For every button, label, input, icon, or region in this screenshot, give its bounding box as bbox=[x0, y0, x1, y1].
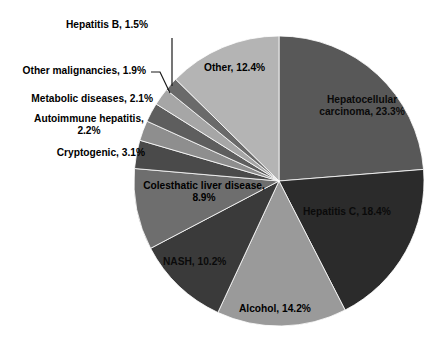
pie-chart-svg bbox=[0, 0, 436, 337]
slice-label-hepatitis-b: Hepatitis B, 1.5% bbox=[66, 19, 148, 31]
pie-chart-figure: Hepatitis B, 1.5% Other malignancies, 1.… bbox=[0, 0, 436, 337]
colesthatic-line1: Colesthatic liver disease, bbox=[143, 180, 265, 191]
slice-label-metabolic-diseases: Metabolic diseases, 2.1% bbox=[31, 93, 153, 105]
hepatocellular-line1: Hepatocellular bbox=[327, 94, 397, 105]
autoimmune-hepatitis-line1: Autoimmune hepatitis, bbox=[34, 113, 144, 124]
leader-lines-group bbox=[151, 38, 172, 93]
slice-label-colesthatic-liver-disease: Colesthatic liver disease, 8.9% bbox=[134, 180, 274, 205]
slice-label-nash: NASH, 10.2% bbox=[163, 256, 226, 268]
slice-label-hepatitis-c: Hepatitis C, 18.4% bbox=[303, 206, 391, 218]
slice-label-other-malignancies: Other malignancies, 1.9% bbox=[23, 65, 146, 77]
colesthatic-line2: 8.9% bbox=[192, 192, 215, 203]
hepatocellular-line2: carcinoma, 23.3% bbox=[319, 106, 405, 117]
slice-label-cryptogenic: Cryptogenic, 3.1% bbox=[57, 147, 145, 159]
slice-label-other: Other, 12.4% bbox=[204, 62, 265, 74]
slice-label-alcohol: Alcohol, 14.2% bbox=[239, 303, 311, 315]
autoimmune-hepatitis-line2: 2.2% bbox=[77, 125, 100, 136]
slice-label-autoimmune-hepatitis: Autoimmune hepatitis, 2.2% bbox=[24, 113, 154, 138]
slice-label-hepatocellular-carcinoma: Hepatocellular carcinoma, 23.3% bbox=[303, 94, 421, 119]
